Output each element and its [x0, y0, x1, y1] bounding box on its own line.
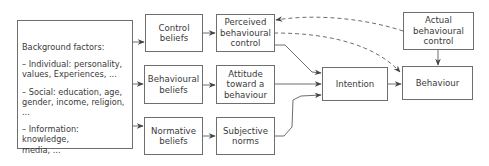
behavioural-beliefs-node: Behavioural beliefs	[144, 65, 203, 104]
normative-beliefs-node: Normative beliefs	[144, 117, 203, 155]
background-factor-social: – Social: education, age, gender, income…	[22, 87, 128, 118]
background-factors-heading: Background factors:	[22, 42, 128, 52]
attitude-node: Attitude toward a behaviour	[216, 65, 275, 104]
control-beliefs-node: Control beliefs	[145, 14, 203, 52]
background-factor-individual: – Individual: personality, values, Exper…	[22, 59, 128, 79]
arrow-norms-to-intention	[274, 95, 321, 136]
behaviour-node: Behaviour	[402, 66, 473, 100]
perceived-behavioural-control-node: Perceived behavioural control	[216, 14, 275, 52]
arrow-perceived-to-intention	[274, 45, 321, 73]
background-factor-information: – Information: knowledge, media, ...	[22, 124, 128, 155]
background-factors-box: Background factors: – Individual: person…	[17, 20, 133, 149]
intention-node: Intention	[322, 67, 388, 101]
dashed-arrow-actual-to-perceived	[276, 17, 403, 31]
actual-behavioural-control-node: Actual behavioural control	[403, 12, 474, 50]
subjective-norms-node: Subjective norms	[216, 117, 275, 155]
